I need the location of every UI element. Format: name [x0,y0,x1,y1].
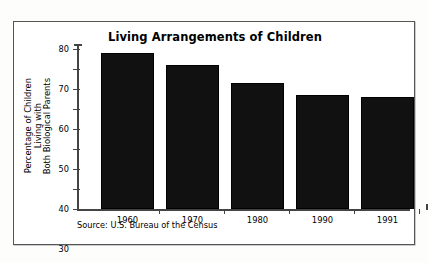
chart-frame: Living Arrangements of Children Percenta… [13,21,415,245]
y-tick: 60 [73,89,80,90]
y-tick-label: 30 [59,244,69,254]
y-tick: 0 [73,209,80,210]
y-tick-label: 40 [59,204,69,214]
y-axis-label: Percentage of Children Living with Both … [12,40,64,212]
plot-area: 01020304050607080 19601970198019901991 [77,49,410,209]
x-tick [419,209,420,214]
y-axis-label-line-2: Living with [34,103,42,148]
y-axis-label-line-1: Percentage of Children [24,78,32,173]
bar [361,97,414,209]
y-tick: 10 [73,189,80,190]
x-tick [224,209,225,214]
bar [296,95,349,209]
y-tick-label: 70 [59,84,69,94]
y-tick-label: 50 [59,164,69,174]
y-tick: 70 [73,69,80,70]
x-axis-line [77,209,410,211]
x-axis-end-tick [426,204,428,210]
y-tick-label: 60 [59,124,69,134]
x-tick [159,209,160,214]
y-tick: 40 [73,129,80,130]
y-tick: 20 [73,169,80,170]
x-tick-label: 1990 [312,215,333,225]
x-tick-label: 1980 [247,215,268,225]
x-tick [289,209,290,214]
y-axis-label-line-3: Both Biological Parents [43,78,51,174]
scanned-page: Living Arrangements of Children Percenta… [0,0,428,263]
page-title: Living Arrangements of Children [14,30,416,44]
y-axis-cap [74,44,82,46]
source-note: Source: U.S. Bureau of the Census [77,220,218,230]
bar [231,83,284,209]
x-tick-label: 1991 [377,215,398,225]
bar [166,65,219,209]
bar [101,53,154,209]
y-tick: 30 [73,149,80,150]
y-tick: 50 [73,109,80,110]
y-tick-label: 80 [59,44,69,54]
y-tick: 80 [73,49,80,50]
x-tick [354,209,355,214]
